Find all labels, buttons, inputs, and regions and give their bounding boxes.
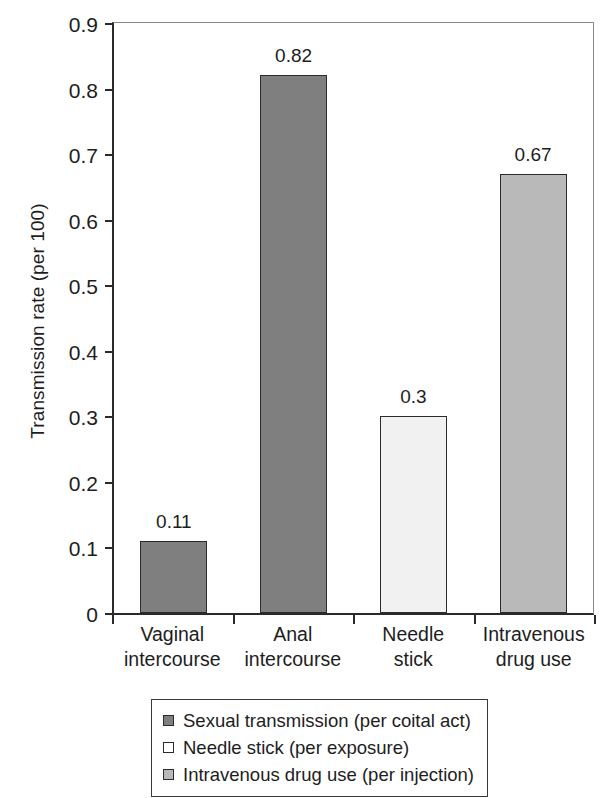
y-axis-tick-label: 0.7 xyxy=(69,144,98,168)
y-axis-tick-label: 0.8 xyxy=(69,79,98,103)
y-axis-tick-label: 0.5 xyxy=(69,275,98,299)
bar-value-label: 0.11 xyxy=(156,511,192,533)
x-axis-category-label-line: Needle xyxy=(353,622,474,647)
x-axis-category-label-line: Vaginal xyxy=(112,622,233,647)
x-axis-category-label-line: drug use xyxy=(474,647,595,672)
y-axis-tick: 0.5 xyxy=(105,285,114,287)
legend-item-label: Intravenous drug use (per injection) xyxy=(183,761,474,788)
y-axis-tick: 0.6 xyxy=(105,220,114,222)
y-axis-tick: 0.2 xyxy=(105,482,114,484)
x-axis-category-label-line: stick xyxy=(353,647,474,672)
legend-swatch-icon xyxy=(163,769,174,780)
legend-item[interactable]: Sexual transmission (per coital act) xyxy=(163,707,474,734)
y-axis-tick-label: 0 xyxy=(86,603,98,627)
bar-slot: 0.82 xyxy=(234,23,354,613)
y-axis-tick-label: 0.6 xyxy=(69,210,98,234)
legend-item[interactable]: Intravenous drug use (per injection) xyxy=(163,761,474,788)
x-axis-category-label-line: intercourse xyxy=(112,647,233,672)
x-axis-category-label: Needlestick xyxy=(353,622,474,672)
x-axis-category-label: Vaginalintercourse xyxy=(112,622,233,672)
x-axis-category-label-line: intercourse xyxy=(233,647,354,672)
y-axis-tick-label: 0.3 xyxy=(69,406,98,430)
y-axis-tick-label: 0.2 xyxy=(69,472,98,496)
bar-value-label: 0.82 xyxy=(275,45,312,67)
bar-slot: 0.11 xyxy=(114,23,234,613)
y-axis-tick-label: 0.9 xyxy=(69,13,98,37)
y-axis-title: Transmission rate (per 100) xyxy=(27,111,49,531)
legend-item-label: Needle stick (per exposure) xyxy=(183,734,409,761)
legend-swatch-icon xyxy=(163,742,174,753)
x-axis-tick xyxy=(594,615,596,624)
y-axis-tick-label: 0.4 xyxy=(69,341,98,365)
y-axis-tick: 0.3 xyxy=(105,416,114,418)
bar-value-label: 0.3 xyxy=(400,386,426,408)
y-axis-tick: 0.1 xyxy=(105,547,114,549)
x-axis-category-label-line: Intravenous xyxy=(474,622,595,647)
x-axis-category-label: Analintercourse xyxy=(233,622,354,672)
plot-area: 0.90.80.70.60.50.40.30.20.10 0.110.820.3… xyxy=(112,22,594,615)
y-axis-tick: 0.8 xyxy=(105,89,114,91)
bar-value-label: 0.67 xyxy=(515,144,552,166)
y-axis-tick-label: 0.1 xyxy=(69,537,98,561)
y-axis-tick: 0.7 xyxy=(105,154,114,156)
x-axis-labels: VaginalintercourseAnalintercourseNeedles… xyxy=(112,622,594,672)
y-axis-tick: 0.4 xyxy=(105,351,114,353)
transmission-rate-bar-chart: Transmission rate (per 100) 0.90.80.70.6… xyxy=(0,0,607,798)
y-axis-tick: 0.9 xyxy=(105,23,114,25)
bar[interactable]: 0.82 xyxy=(260,75,327,613)
bar[interactable]: 0.67 xyxy=(500,174,567,613)
bar-group: 0.110.820.30.67 xyxy=(114,23,593,613)
legend-item[interactable]: Needle stick (per exposure) xyxy=(163,734,474,761)
chart-legend: Sexual transmission (per coital act)Need… xyxy=(151,699,488,797)
bar[interactable]: 0.11 xyxy=(140,541,207,613)
x-axis-category-label-line: Anal xyxy=(233,622,354,647)
bar-slot: 0.67 xyxy=(473,23,593,613)
bar[interactable]: 0.3 xyxy=(380,416,447,613)
x-axis-category-label: Intravenousdrug use xyxy=(474,622,595,672)
legend-swatch-icon xyxy=(163,715,174,726)
legend-item-label: Sexual transmission (per coital act) xyxy=(183,707,471,734)
bar-slot: 0.3 xyxy=(354,23,474,613)
